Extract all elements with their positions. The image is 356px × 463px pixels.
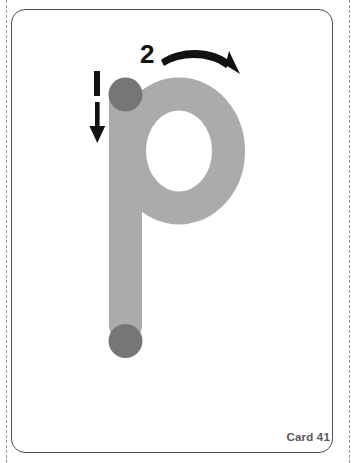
cut-guide-left [6,0,7,463]
cut-guide-right [349,0,350,463]
tracing-card-page: 2 Card 41 [0,0,356,463]
card-number-label: Card 41 [286,431,330,443]
trace-card [11,9,333,453]
